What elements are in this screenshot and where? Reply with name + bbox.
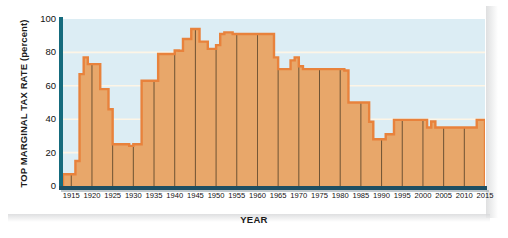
y-tick-label: 100 — [30, 13, 56, 24]
x-tick-label: 1950 — [208, 191, 225, 200]
x-tick-label: 2015 — [477, 191, 494, 200]
x-tick-label: 1955 — [228, 191, 245, 200]
x-tick-label: 1915 — [63, 191, 80, 200]
x-tick-label: 1965 — [270, 191, 287, 200]
x-tick-label: 2005 — [435, 191, 452, 200]
x-tick-label: 1990 — [373, 191, 390, 200]
x-tick-label: 1935 — [146, 191, 163, 200]
x-tick-label: 2000 — [414, 191, 431, 200]
x-tick-label: 1925 — [104, 191, 121, 200]
chart-figure: TOP MARGINAL TAX RATE (percent) 02040608… — [0, 0, 508, 238]
plot-svg — [63, 19, 485, 186]
x-tick-label: 1970 — [290, 191, 307, 200]
x-tick-label: 1945 — [187, 191, 204, 200]
x-tick-label: 1940 — [166, 191, 183, 200]
x-tick-label: 2010 — [456, 191, 473, 200]
x-tick-label: 1995 — [394, 191, 411, 200]
x-tick-label: 1975 — [311, 191, 328, 200]
y-tick-label: 60 — [30, 80, 56, 91]
x-tick-label: 1985 — [352, 191, 369, 200]
y-axis-line — [59, 17, 63, 188]
plot-area — [63, 19, 485, 186]
y-tick-label: 40 — [30, 113, 56, 124]
y-tick-label: 20 — [30, 147, 56, 158]
x-tick-label: 1930 — [125, 191, 142, 200]
y-tick-label: 0 — [30, 180, 56, 191]
x-tick-label: 1920 — [84, 191, 101, 200]
y-tick-label: 80 — [30, 46, 56, 57]
x-axis-title: YEAR — [0, 214, 508, 225]
x-axis-tick-labels: 1915192019251930193519401945195019551960… — [0, 191, 508, 207]
figure-right-shadow — [486, 6, 498, 218]
x-tick-label: 1980 — [332, 191, 349, 200]
x-tick-label: 1960 — [249, 191, 266, 200]
